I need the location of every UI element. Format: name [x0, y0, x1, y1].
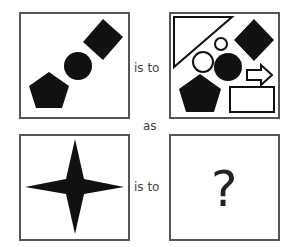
circle-shape	[64, 52, 92, 80]
circle-shape	[214, 53, 242, 81]
medium-circle-shape	[193, 52, 213, 72]
pentagon-shape	[179, 74, 221, 112]
panel-c-shapes	[21, 136, 128, 239]
small-circle-shape	[215, 38, 227, 50]
relation-label-top: is to	[134, 61, 159, 75]
connector-label: as	[143, 119, 157, 133]
panel-c	[19, 134, 130, 241]
arrow-shape	[247, 65, 272, 85]
question-mark: ?	[211, 164, 238, 214]
relation-label-bottom: is to	[134, 180, 159, 194]
panel-b	[169, 12, 280, 119]
pentagon-shape	[29, 72, 69, 108]
diamond-shape	[83, 19, 123, 60]
four-point-star-shape	[25, 139, 124, 234]
panel-d: ?	[169, 134, 280, 241]
panel-a-shapes	[21, 14, 128, 117]
rectangle-shape	[230, 87, 274, 112]
diamond-shape	[234, 19, 274, 61]
panel-a	[19, 12, 130, 119]
panel-b-shapes	[171, 14, 278, 117]
